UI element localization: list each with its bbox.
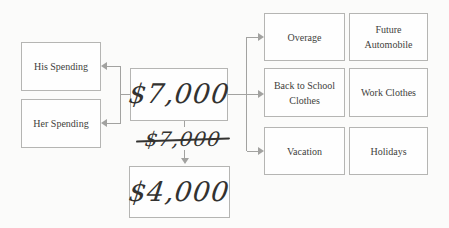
category-label: Overage — [288, 30, 322, 45]
budget-diagram: His Spending Her Spending $7,000 $7,000 … — [0, 0, 449, 228]
category-label: Work Clothes — [361, 85, 416, 100]
category-label: Back to School Clothes — [271, 78, 338, 108]
category-label: Future Automobile — [356, 22, 421, 52]
connector-to-overage — [247, 37, 258, 38]
category-label: Vacation — [287, 144, 322, 159]
connector-left-stub — [120, 94, 130, 95]
category-box-back-to-school-clothes: Back to School Clothes — [264, 68, 345, 117]
struck-amount: $7,000 — [140, 126, 226, 152]
total-amount-box: $7,000 — [130, 68, 228, 121]
her-spending-label: Her Spending — [33, 116, 88, 131]
his-spending-box: His Spending — [21, 42, 101, 91]
connector-right-stub — [228, 94, 246, 95]
connector-to-vacation — [247, 151, 258, 152]
arrowhead-left-her-icon — [101, 119, 107, 127]
arrowhead-left-his-icon — [101, 62, 107, 70]
connector-left-vertical — [120, 66, 121, 124]
arrowhead-right-row1-icon — [258, 33, 264, 41]
connector-down-lower — [184, 150, 185, 158]
category-label: Holidays — [370, 144, 406, 159]
total-amount-text: $7,000 — [126, 74, 231, 115]
category-box-future-automobile: Future Automobile — [349, 13, 428, 61]
category-box-holidays: Holidays — [349, 127, 428, 175]
her-spending-box: Her Spending — [21, 99, 101, 148]
category-box-work-clothes: Work Clothes — [349, 68, 428, 117]
arrowhead-right-row2-icon — [258, 90, 264, 98]
revised-amount-text: $4,000 — [127, 172, 232, 213]
revised-amount-box: $4,000 — [129, 166, 230, 218]
category-box-overage: Overage — [264, 13, 345, 61]
arrowhead-down-icon — [181, 158, 189, 164]
connector-to-school-clothes — [247, 94, 258, 95]
connector-down-upper — [184, 121, 185, 127]
connector-to-his-spending — [107, 66, 120, 67]
his-spending-label: His Spending — [34, 59, 88, 74]
arrowhead-right-row3-icon — [258, 147, 264, 155]
category-box-vacation: Vacation — [264, 127, 345, 175]
connector-to-her-spending — [107, 123, 120, 124]
